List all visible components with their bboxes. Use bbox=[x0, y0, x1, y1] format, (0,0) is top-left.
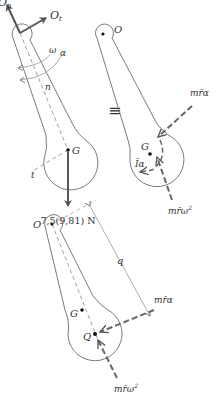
percussion-point-label: Q bbox=[83, 331, 91, 342]
tangential-inertia-force-arrow bbox=[100, 310, 154, 332]
tangent-axis bbox=[34, 150, 68, 170]
kinetic-diagram: O G mr̄α mr̄ω2 Īα bbox=[96, 24, 209, 216]
tangential-inertia-force-arrow bbox=[158, 106, 192, 137]
reaction-tangential-arrow bbox=[20, 18, 46, 33]
alpha-label: α bbox=[60, 48, 66, 58]
center-of-mass-point bbox=[66, 148, 70, 152]
pendulum-diagram: On Ot ω α n t G 7,5(9,81) N ≡ O G mr̄α m… bbox=[0, 0, 222, 410]
tangential-inertia-label: mr̄α bbox=[154, 295, 173, 305]
tangential-axis-label: t bbox=[31, 170, 35, 180]
center-of-percussion-diagram: O q G Q mr̄α mr̄ω2 bbox=[33, 200, 173, 394]
normal-inertia-force-arrow bbox=[98, 340, 117, 378]
reaction-tangential-label: Ot bbox=[50, 9, 62, 23]
center-of-mass-point bbox=[148, 152, 152, 156]
pivot-label: O bbox=[33, 219, 41, 230]
center-of-mass-label: G bbox=[72, 145, 80, 156]
free-body-diagram: On Ot ω α n t G 7,5(9,81) N bbox=[0, 0, 98, 226]
normal-inertia-label: mr̄ω2 bbox=[114, 382, 138, 394]
percussion-point bbox=[93, 332, 97, 336]
weight-label: 7,5(9,81) N bbox=[40, 215, 95, 226]
pivot-point bbox=[101, 32, 104, 35]
omega-label: ω bbox=[49, 45, 57, 55]
normal-axis-label: n bbox=[45, 82, 51, 92]
center-of-mass-label: G bbox=[141, 141, 149, 152]
reaction-normal-label: On bbox=[0, 0, 12, 10]
tangential-inertia-label: mr̄α bbox=[190, 88, 209, 98]
center-of-mass-label: G bbox=[70, 308, 78, 319]
center-of-mass-point bbox=[80, 308, 84, 312]
distance-label: q bbox=[117, 255, 123, 266]
normal-inertia-label: mr̄ω2 bbox=[168, 204, 192, 216]
moment-label: Īα bbox=[134, 158, 145, 169]
pivot-label: O bbox=[114, 24, 122, 35]
